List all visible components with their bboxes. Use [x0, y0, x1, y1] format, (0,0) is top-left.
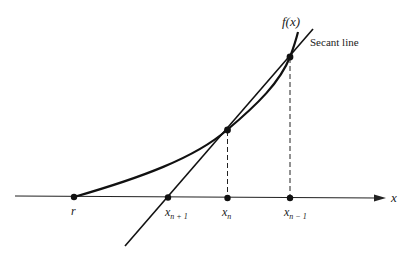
label-x-n-minus-1: xn − 1 [283, 205, 307, 221]
point-curve-x-n [224, 127, 231, 134]
x-axis [15, 196, 378, 198]
function-label: f(x) [282, 14, 300, 29]
x-axis-label: x [390, 190, 397, 205]
function-curve [74, 32, 298, 197]
label-r: r [71, 204, 76, 218]
secant-line-label: Secant line [310, 36, 359, 48]
secant-method-diagram: x f(x) Secant line r xn + 1 xn xn − 1 [0, 0, 410, 264]
point-r [71, 194, 77, 200]
label-x-n-plus-1: xn + 1 [164, 205, 188, 221]
point-x-n-axis [224, 195, 230, 201]
point-x-n-plus-1 [165, 194, 171, 200]
label-x-n: xn [221, 205, 231, 221]
x-axis-arrow-icon [374, 195, 386, 202]
point-curve-x-n-minus-1 [287, 54, 294, 61]
point-x-n-minus-1-axis [287, 195, 293, 201]
